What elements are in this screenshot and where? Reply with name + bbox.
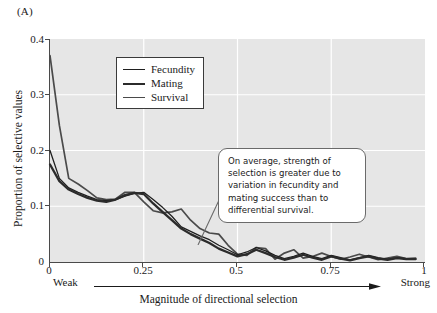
panel-label: (A) [17, 5, 33, 17]
legend-label: Fecundity [151, 63, 195, 75]
direction-arrow-icon [94, 283, 381, 290]
chart-legend: Fecundity Mating Survival [116, 57, 204, 109]
legend-item-fecundity: Fecundity [123, 62, 195, 76]
figure-panel-a: (A) Proportion of selective values 0.4 0… [0, 0, 437, 313]
legend-line-swatch [123, 78, 145, 88]
legend-item-survival: Survival [123, 90, 195, 104]
weak-label: Weak [53, 276, 78, 288]
legend-label: Mating [151, 77, 183, 89]
x-tick-label: 0 [29, 264, 69, 276]
x-tick-label: 1 [404, 264, 437, 276]
y-tick-label: 0.3 [18, 88, 44, 100]
x-tick-label: 0.75 [310, 264, 350, 276]
x-axis-title: Magnitude of directional selection [0, 293, 437, 305]
strong-label: Strong [401, 276, 430, 288]
x-tick-label: 0.25 [123, 264, 163, 276]
legend-line-swatch [123, 64, 145, 74]
x-tick-label: 0.5 [216, 264, 256, 276]
y-tick-label: 0.1 [18, 199, 44, 211]
legend-label: Survival [151, 91, 188, 103]
legend-item-mating: Mating [123, 76, 195, 90]
y-tick-label: 0.4 [18, 33, 44, 45]
legend-line-swatch [123, 92, 145, 102]
annotation-callout: On average, strength of selection is gre… [218, 148, 366, 223]
direction-indicator: Weak Strong [49, 276, 424, 290]
y-tick-label: 0.2 [18, 144, 44, 156]
